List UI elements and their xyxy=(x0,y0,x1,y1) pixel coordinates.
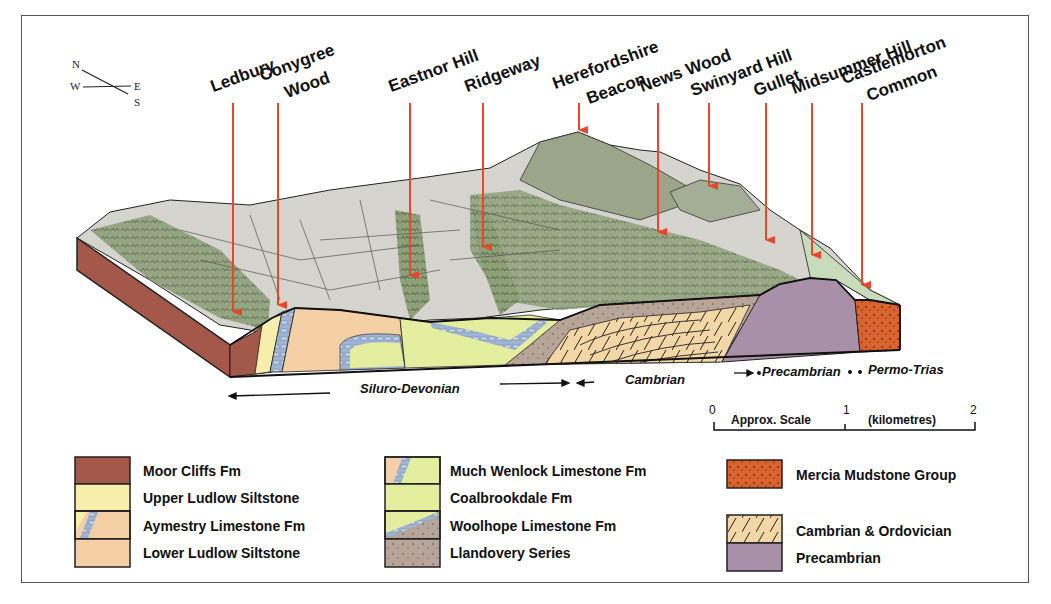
legend-mercia-mudstone: Mercia Mudstone Group xyxy=(796,467,956,483)
legend-aymestry: Aymestry Limestone Fm xyxy=(143,518,305,534)
legend-cambrian-ordovician: Cambrian & Ordovician xyxy=(796,523,952,539)
scale-label: Approx. Scale xyxy=(731,413,811,427)
legend-llandovery: Llandovery Series xyxy=(450,545,571,561)
scale-tick-1: 1 xyxy=(843,403,850,417)
compass-south: S xyxy=(134,96,140,108)
compass-icon xyxy=(82,70,131,94)
era-siluro-devonian: Siluro-Devonian xyxy=(360,381,460,396)
era-cambrian: Cambrian xyxy=(625,372,685,387)
legend-woolhope: Woolhope Limestone Fm xyxy=(450,518,616,534)
compass-east: E xyxy=(134,80,141,92)
scale-tick-2: 2 xyxy=(970,403,977,417)
legend-coalbrookdale: Coalbrookdale Fm xyxy=(450,490,572,506)
legend-precambrian: Precambrian xyxy=(796,550,881,566)
era-precambrian: Precambrian xyxy=(762,364,841,379)
legend-lower-ludlow: Lower Ludlow Siltstone xyxy=(143,545,300,561)
compass-north: N xyxy=(72,58,80,70)
legend-much-wenlock: Much Wenlock Limestone Fm xyxy=(450,463,647,479)
compass-west: W xyxy=(70,80,80,92)
legend-moor-cliffs: Moor Cliffs Fm xyxy=(143,463,241,479)
era-permo-trias: Permo-Trias xyxy=(868,362,944,377)
scale-units: (kilometres) xyxy=(868,413,936,427)
legend-upper-ludlow: Upper Ludlow Siltstone xyxy=(143,490,299,506)
scale-tick-0: 0 xyxy=(709,403,716,417)
